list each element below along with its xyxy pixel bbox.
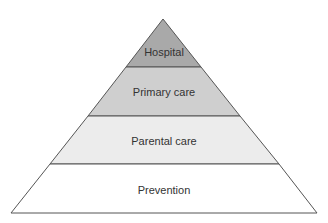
label-hospital: Hospital	[144, 46, 184, 58]
pyramid-level-hospital	[126, 19, 201, 67]
label-prevention: Prevention	[138, 184, 191, 196]
label-parental-care: Parental care	[131, 135, 196, 147]
pyramid-diagram: Hospital Primary care Parental care Prev…	[0, 0, 328, 223]
label-primary-care: Primary care	[133, 86, 195, 98]
